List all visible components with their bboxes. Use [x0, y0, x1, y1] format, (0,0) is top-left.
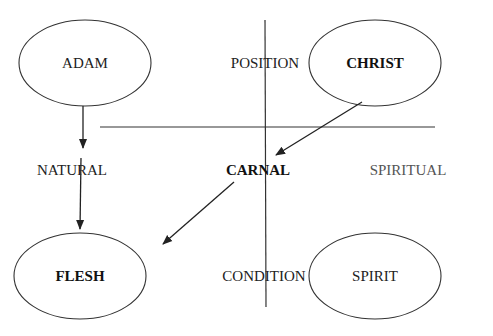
label-natural: NATURAL	[37, 163, 107, 178]
node-christ: CHRIST	[346, 56, 404, 71]
label-position: POSITION	[231, 56, 299, 71]
label-carnal: CARNAL	[226, 163, 290, 178]
arrow-carnal-to-flesh	[163, 182, 234, 244]
node-adam: ADAM	[62, 56, 108, 71]
label-condition: CONDITION	[222, 269, 305, 284]
node-spirit: SPIRIT	[352, 269, 398, 284]
label-spiritual: SPIRITUAL	[370, 163, 447, 178]
node-flesh: FLESH	[55, 269, 104, 284]
arrow-christ-to-carnal	[276, 102, 362, 155]
